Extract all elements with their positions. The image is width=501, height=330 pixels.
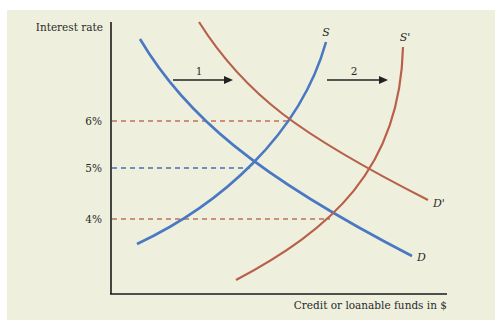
y-tick-5pct: 5% xyxy=(85,162,102,174)
arrow-1-label: 1 xyxy=(196,65,203,77)
curve-label-s: S xyxy=(322,26,330,39)
arrow-2-label: 2 xyxy=(351,65,358,77)
y-axis-label: Interest rate xyxy=(36,21,103,33)
curve-label-s-prime: S' xyxy=(400,31,411,44)
loanable-funds-chart: Interest rate Credit or loanable funds i… xyxy=(0,0,501,330)
x-axis-label: Credit or loanable funds in $ xyxy=(294,299,447,311)
y-tick-4pct: 4% xyxy=(85,213,102,225)
y-tick-6pct: 6% xyxy=(85,115,102,127)
curve-label-d: D xyxy=(416,251,426,264)
curve-label-d-prime: D' xyxy=(432,197,445,210)
